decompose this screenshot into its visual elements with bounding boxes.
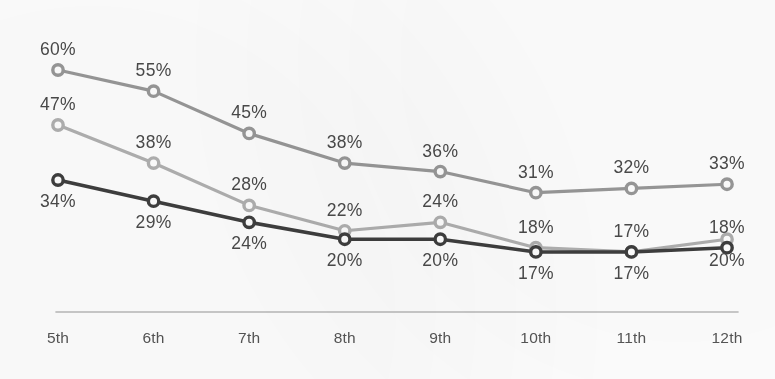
x-tick-label-9th: 9th: [429, 329, 451, 346]
data-point-series-top-7th: [244, 128, 254, 138]
value-label-series-middle-6th: 38%: [136, 132, 172, 152]
data-point-series-top-10th: [531, 187, 541, 197]
data-point-series-middle-5th: [53, 120, 63, 130]
x-tick-label-11th: 11th: [617, 329, 647, 346]
value-label-series-top-7th: 45%: [231, 102, 267, 122]
chart-plot-area: 5th6th7th8th9th10th11th12th 60%55%45%38%…: [0, 0, 775, 379]
value-label-series-bottom-7th: 24%: [231, 233, 267, 253]
data-point-series-bottom-6th: [148, 196, 158, 206]
value-label-series-top-6th: 55%: [136, 60, 172, 80]
data-point-series-bottom-10th: [531, 247, 541, 257]
value-label-series-bottom-10th: 17%: [518, 263, 554, 283]
data-point-series-top-5th: [53, 65, 63, 75]
value-label-series-bottom-6th: 29%: [136, 212, 172, 232]
data-point-series-bottom-9th: [435, 234, 445, 244]
data-point-series-top-12th: [722, 179, 732, 189]
value-label-series-bottom-11th: 17%: [613, 263, 649, 283]
data-point-series-middle-6th: [148, 158, 158, 168]
x-tick-label-8th: 8th: [334, 329, 356, 346]
value-label-series-middle-9th: 24%: [422, 191, 458, 211]
x-tick-label-10th: 10th: [520, 329, 551, 346]
value-label-series-top-10th: 31%: [518, 162, 554, 182]
x-axis-tick-labels: 5th6th7th8th9th10th11th12th: [47, 329, 743, 346]
value-label-series-bottom-8th: 20%: [327, 250, 363, 270]
x-tick-label-6th: 6th: [142, 329, 164, 346]
data-point-series-middle-7th: [244, 200, 254, 210]
value-label-series-middle-7th: 28%: [231, 174, 267, 194]
data-point-series-top-6th: [148, 86, 158, 96]
data-point-series-bottom-7th: [244, 217, 254, 227]
data-point-series-top-11th: [626, 183, 636, 193]
data-point-series-top-8th: [340, 158, 350, 168]
value-label-series-bottom-12th: 18%: [709, 217, 745, 237]
x-tick-label-7th: 7th: [238, 329, 260, 346]
value-label-series-top-8th: 38%: [327, 132, 363, 152]
value-label-series-middle-8th: 22%: [327, 200, 363, 220]
value-label-series-bottom-9th: 20%: [422, 250, 458, 270]
line-chart: 5th6th7th8th9th10th11th12th 60%55%45%38%…: [0, 0, 775, 379]
data-point-series-top-9th: [435, 166, 445, 176]
value-label-series-middle-5th: 47%: [40, 94, 76, 114]
data-point-series-bottom-11th: [626, 247, 636, 257]
value-label-series-middle-10th: 18%: [518, 217, 554, 237]
value-label-series-middle-11th: 17%: [613, 221, 649, 241]
value-label-series-middle-12th: 20%: [709, 250, 745, 270]
value-label-series-top-12th: 33%: [709, 153, 745, 173]
value-label-series-top-11th: 32%: [613, 157, 649, 177]
value-label-series-top-9th: 36%: [422, 141, 458, 161]
data-point-series-bottom-8th: [340, 234, 350, 244]
x-tick-label-5th: 5th: [47, 329, 69, 346]
data-point-series-bottom-5th: [53, 175, 63, 185]
value-label-series-top-5th: 60%: [40, 39, 76, 59]
x-tick-label-12th: 12th: [712, 329, 743, 346]
value-label-series-bottom-5th: 34%: [40, 191, 76, 211]
data-point-series-middle-9th: [435, 217, 445, 227]
